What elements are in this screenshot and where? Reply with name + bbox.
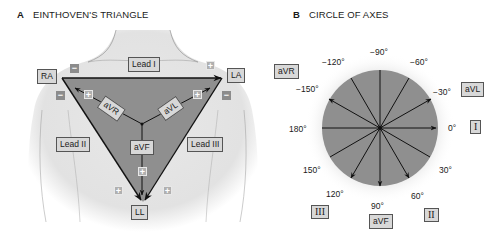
angle-60: 60° (411, 192, 424, 201)
lead-i-label: Lead I (128, 57, 160, 72)
lead-ii-label: Lead II (56, 137, 90, 152)
circle-lead-iii-label: III (311, 205, 329, 219)
angle-minus-30: −30° (433, 88, 451, 97)
circle-lead-i-label: I (470, 120, 481, 134)
electrode-ra: RA (37, 69, 57, 84)
minus-sign-icon: − (70, 64, 79, 73)
electrode-la: LA (227, 68, 245, 83)
angle-120: 120° (326, 190, 344, 199)
angle-90: 90° (371, 202, 384, 211)
plus-sign-icon: + (163, 186, 172, 195)
minus-sign-icon: − (222, 91, 231, 100)
plus-sign-icon: + (138, 167, 147, 176)
angle-minus-60: −60° (410, 58, 428, 67)
minus-sign-icon: − (56, 91, 65, 100)
plus-sign-icon: + (114, 186, 123, 195)
circle-avr-label: aVR (274, 64, 299, 79)
avf-label: aVF (130, 140, 154, 155)
angle-150: 150° (303, 166, 321, 175)
plus-sign-icon: + (84, 90, 93, 99)
circle-lead-ii-label: II (424, 208, 439, 222)
angle-minus-90: −90° (370, 48, 388, 57)
angle-180: 180° (289, 125, 307, 134)
angle-0: 0° (448, 124, 456, 133)
angle-30: 30° (439, 166, 452, 175)
angle-minus-120: −120° (322, 58, 345, 67)
circle-avl-label: aVL (461, 82, 484, 97)
angle-minus-150: −150° (296, 85, 319, 94)
plus-sign-icon: + (193, 90, 202, 99)
electrode-ll: LL (131, 205, 148, 220)
lead-iii-label: Lead III (187, 137, 223, 152)
diagram-graphics (0, 0, 503, 237)
plus-sign-icon: + (206, 61, 215, 70)
circle-avf-label: aVF (369, 214, 393, 229)
circle-of-axes (305, 53, 455, 203)
